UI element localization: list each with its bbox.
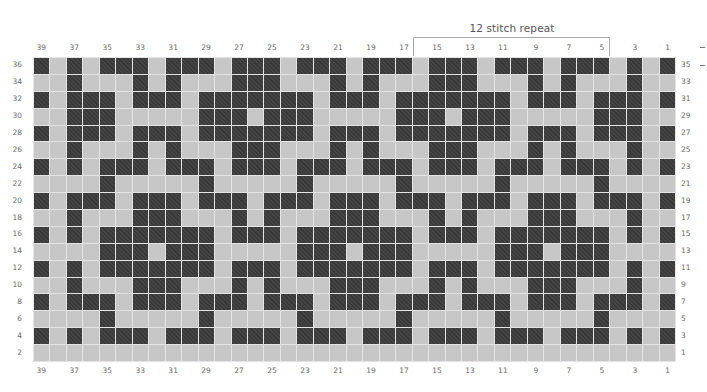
contrast-stitch-cell [660, 126, 675, 142]
main-stitch-cell [396, 278, 411, 294]
main-stitch-cell [281, 261, 296, 277]
main-stitch-cell [610, 75, 625, 91]
contrast-stitch-cell [264, 142, 279, 158]
main-stitch-cell [182, 345, 197, 361]
main-stitch-cell [544, 328, 559, 344]
row-label: 12 [0, 260, 22, 277]
main-stitch-cell [215, 75, 230, 91]
main-stitch-cell [610, 210, 625, 226]
main-stitch-cell [610, 261, 625, 277]
contrast-stitch-cell [610, 109, 625, 125]
contrast-stitch-cell [166, 92, 181, 108]
contrast-stitch-cell [347, 294, 362, 310]
contrast-stitch-cell [67, 92, 82, 108]
contrast-stitch-cell [429, 92, 444, 108]
contrast-stitch-cell [215, 92, 230, 108]
contrast-stitch-cell [495, 159, 510, 175]
main-stitch-cell [478, 75, 493, 91]
main-stitch-cell [363, 176, 378, 192]
contrast-stitch-cell [446, 261, 461, 277]
main-stitch-cell [627, 176, 642, 192]
main-stitch-cell [643, 311, 658, 327]
main-stitch-cell [380, 126, 395, 142]
contrast-stitch-cell [594, 126, 609, 142]
contrast-stitch-cell [528, 142, 543, 158]
contrast-stitch-cell [297, 92, 312, 108]
contrast-stitch-cell [199, 311, 214, 327]
contrast-stitch-cell [577, 328, 592, 344]
main-stitch-cell [627, 244, 642, 260]
main-stitch-cell [544, 75, 559, 91]
main-stitch-cell [166, 345, 181, 361]
contrast-stitch-cell [281, 109, 296, 125]
contrast-stitch-cell [297, 261, 312, 277]
contrast-stitch-cell [627, 126, 642, 142]
contrast-stitch-cell [429, 328, 444, 344]
main-stitch-cell [511, 126, 526, 142]
main-stitch-cell [511, 176, 526, 192]
contrast-stitch-cell [347, 227, 362, 243]
main-stitch-cell [660, 278, 675, 294]
main-stitch-cell [660, 345, 675, 361]
contrast-stitch-cell [248, 159, 263, 175]
row-label: 28 [0, 125, 22, 142]
row-label: 17 [681, 210, 703, 227]
contrast-stitch-cell [495, 92, 510, 108]
contrast-stitch-cell [511, 261, 526, 277]
main-stitch-cell [297, 210, 312, 226]
column-label: 27 [231, 366, 247, 375]
contrast-stitch-cell [281, 92, 296, 108]
column-label: 31 [165, 43, 181, 52]
main-stitch-cell [511, 142, 526, 158]
contrast-stitch-cell [528, 227, 543, 243]
contrast-stitch-cell [248, 328, 263, 344]
main-stitch-cell [248, 210, 263, 226]
column-label: 37 [66, 366, 82, 375]
main-stitch-cell [166, 176, 181, 192]
main-stitch-cell [610, 311, 625, 327]
main-stitch-cell [100, 142, 115, 158]
contrast-stitch-cell [380, 261, 395, 277]
contrast-stitch-cell [133, 244, 148, 260]
main-stitch-cell [380, 345, 395, 361]
main-stitch-cell [380, 278, 395, 294]
contrast-stitch-cell [264, 278, 279, 294]
contrast-stitch-cell [199, 328, 214, 344]
main-stitch-cell [330, 345, 345, 361]
contrast-stitch-cell [396, 109, 411, 125]
main-stitch-cell [133, 311, 148, 327]
contrast-stitch-cell [363, 126, 378, 142]
contrast-stitch-cell [495, 311, 510, 327]
contrast-stitch-cell [495, 58, 510, 74]
contrast-stitch-cell [34, 193, 49, 209]
main-stitch-cell [248, 109, 263, 125]
main-stitch-cell [561, 109, 576, 125]
main-stitch-cell [380, 109, 395, 125]
contrast-stitch-cell [347, 261, 362, 277]
contrast-stitch-cell [396, 159, 411, 175]
main-stitch-cell [314, 75, 329, 91]
main-stitch-cell [314, 311, 329, 327]
main-stitch-cell [413, 261, 428, 277]
contrast-stitch-cell [528, 193, 543, 209]
column-label: 11 [495, 43, 511, 52]
contrast-stitch-cell [297, 58, 312, 74]
contrast-stitch-cell [528, 244, 543, 260]
main-stitch-cell [577, 75, 592, 91]
row-label: 27 [681, 125, 703, 142]
column-label: 1 [660, 366, 676, 375]
main-stitch-cell [248, 244, 263, 260]
contrast-stitch-cell [363, 92, 378, 108]
contrast-stitch-cell [347, 126, 362, 142]
contrast-stitch-cell [511, 328, 526, 344]
main-stitch-cell [396, 142, 411, 158]
row-label: 2 [0, 345, 22, 362]
main-stitch-cell [116, 92, 131, 108]
column-label: 15 [429, 366, 445, 375]
row-label: 3 [681, 328, 703, 345]
contrast-stitch-cell [166, 261, 181, 277]
main-stitch-cell [116, 345, 131, 361]
contrast-stitch-cell [34, 261, 49, 277]
contrast-stitch-cell [182, 58, 197, 74]
main-stitch-cell [413, 328, 428, 344]
